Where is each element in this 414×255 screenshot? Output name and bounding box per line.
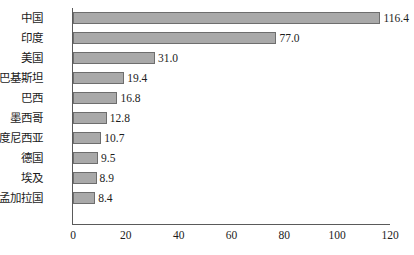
bar — [73, 12, 380, 24]
chart-row: 印度尼西亚10.7 — [73, 128, 390, 148]
bar — [73, 32, 276, 44]
bar — [73, 172, 97, 184]
x-axis-tick-label: 120 — [370, 228, 410, 242]
x-axis-tick-label: 40 — [159, 228, 199, 242]
bar-value-label: 116.4 — [380, 8, 408, 28]
category-label: 印度 — [0, 28, 43, 48]
bar-value-label: 31.0 — [155, 48, 178, 68]
bar-value-label: 8.9 — [97, 168, 114, 188]
bar — [73, 52, 155, 64]
x-axis-tick-label: 0 — [53, 228, 93, 242]
bar-value-label: 8.4 — [95, 188, 112, 208]
bar — [73, 132, 101, 144]
category-label: 孟加拉国 — [0, 188, 43, 208]
category-label: 巴基斯坦 — [0, 68, 43, 88]
x-axis-tick-label: 80 — [264, 228, 304, 242]
chart-row: 印度77.0 — [73, 28, 390, 48]
bar-chart: 中国116.4印度77.0美国31.0巴基斯坦19.4巴西16.8墨西哥12.8… — [0, 0, 414, 255]
chart-row: 美国31.0 — [73, 48, 390, 68]
bar-value-label: 16.8 — [117, 88, 140, 108]
chart-row: 巴基斯坦19.4 — [73, 68, 390, 88]
category-label: 中国 — [0, 8, 43, 28]
chart-row: 埃及8.9 — [73, 168, 390, 188]
bar-value-label: 9.5 — [98, 148, 115, 168]
bar — [73, 152, 98, 164]
bar — [73, 72, 124, 84]
bar-value-label: 77.0 — [276, 28, 299, 48]
chart-row: 中国116.4 — [73, 8, 390, 28]
category-label: 埃及 — [0, 168, 43, 188]
category-label: 印度尼西亚 — [0, 128, 43, 148]
chart-row: 墨西哥12.8 — [73, 108, 390, 128]
x-axis-tick-label: 100 — [317, 228, 357, 242]
plot-area: 中国116.4印度77.0美国31.0巴基斯坦19.4巴西16.8墨西哥12.8… — [73, 8, 390, 225]
chart-row: 孟加拉国8.4 — [73, 188, 390, 208]
category-label: 德国 — [0, 148, 43, 168]
bar — [73, 92, 117, 104]
category-label: 巴西 — [0, 88, 43, 108]
bar-value-label: 19.4 — [124, 68, 147, 88]
bar — [73, 112, 107, 124]
x-axis-tick-label: 60 — [212, 228, 252, 242]
chart-row: 德国9.5 — [73, 148, 390, 168]
x-axis-tick-label: 20 — [106, 228, 146, 242]
category-label: 美国 — [0, 48, 43, 68]
bar-value-label: 10.7 — [101, 128, 124, 148]
chart-row: 巴西16.8 — [73, 88, 390, 108]
bar-value-label: 12.8 — [107, 108, 130, 128]
bar — [73, 192, 95, 204]
category-label: 墨西哥 — [0, 108, 43, 128]
